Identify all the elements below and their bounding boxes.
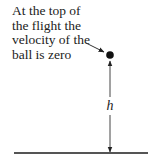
ball: [106, 51, 114, 59]
flight-diagram: h: [0, 0, 152, 157]
pointer-arrow: [86, 43, 104, 52]
height-label: h: [107, 98, 114, 113]
